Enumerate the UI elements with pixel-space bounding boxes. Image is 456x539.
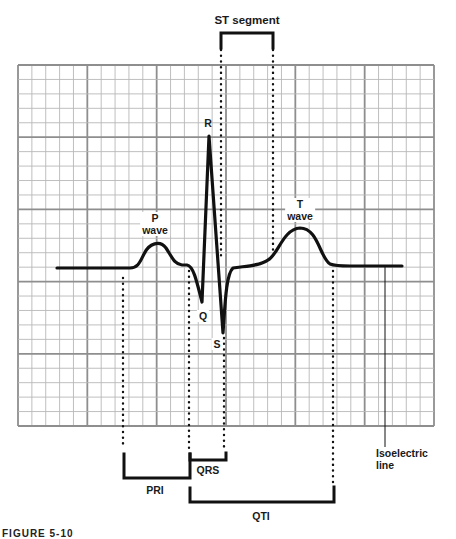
- qti-bracket: [190, 487, 334, 502]
- t-wave-subtitle: wave: [287, 210, 313, 222]
- qrs-label: QRS: [197, 464, 220, 476]
- r-label: R: [204, 117, 212, 129]
- pri-bracket: [124, 454, 190, 478]
- ecg-trace: [57, 136, 402, 333]
- p-wave-label: P wave: [140, 212, 170, 236]
- qrs-bracket: [190, 453, 226, 460]
- st-segment-label: ST segment: [214, 14, 279, 26]
- t-wave-label: T wave: [285, 198, 315, 222]
- t-wave-title: T: [287, 198, 313, 210]
- q-label: Q: [197, 310, 209, 322]
- isoelectric-line-label: Isoelectric line: [376, 447, 428, 471]
- ecg-grid: [18, 65, 434, 426]
- isoelectric-label-line1: Isoelectric: [376, 447, 428, 459]
- p-wave-title: P: [142, 212, 168, 224]
- s-label: S: [211, 338, 222, 350]
- pri-label: PRI: [146, 484, 164, 496]
- st-segment-bracket: [221, 33, 273, 48]
- qti-label: QTI: [252, 510, 270, 522]
- figure-caption: FIGURE 5-10: [2, 528, 74, 539]
- isoelectric-label-line2: line: [376, 459, 428, 471]
- p-wave-subtitle: wave: [142, 224, 168, 236]
